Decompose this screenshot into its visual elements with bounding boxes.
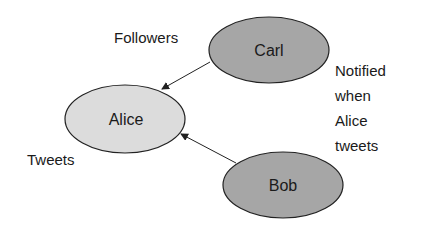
follower-diagram: Carl Alice Bob Followers Tweets Notified…: [0, 0, 423, 237]
notified-annotation: Notified when Alice tweets: [334, 62, 386, 154]
node-carl-label: Carl: [254, 42, 283, 59]
node-bob-label: Bob: [269, 177, 298, 194]
node-bob: Bob: [223, 152, 343, 218]
notified-line-1: Notified: [335, 62, 386, 79]
followers-annotation: Followers: [114, 29, 178, 46]
node-alice-label: Alice: [109, 111, 144, 128]
node-carl: Carl: [209, 17, 329, 83]
edge-bob-to-alice: [181, 134, 236, 163]
notified-line-4: tweets: [335, 137, 378, 154]
tweets-annotation: Tweets: [27, 151, 75, 168]
edge-carl-to-alice: [162, 62, 210, 89]
notified-line-2: when: [334, 87, 371, 104]
node-alice: Alice: [65, 85, 185, 153]
notified-line-3: Alice: [335, 112, 368, 129]
